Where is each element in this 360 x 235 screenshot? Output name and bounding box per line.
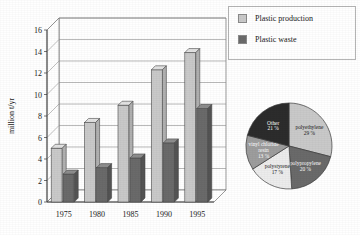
legend-label-plastic-waste: Plastic waste bbox=[255, 35, 297, 44]
y-axis-title: million t/yr bbox=[7, 98, 16, 135]
bar-plastic-waste-1975 bbox=[63, 170, 78, 202]
y-axis-tick-label: 16 bbox=[34, 26, 42, 35]
pie-value-polyethylene: 29 % bbox=[304, 130, 316, 136]
pie-value-polystyrene: 17 % bbox=[272, 169, 284, 175]
y-axis-tick-label: 12 bbox=[34, 69, 42, 78]
pie-chart-canvas: polyethylene29 %polypropylene20 %polysty… bbox=[236, 92, 346, 204]
legend-item-plastic-waste: Plastic waste bbox=[238, 35, 355, 44]
legend-label-plastic-production: Plastic production bbox=[255, 14, 313, 23]
figure-plastic-production-and-waste: 0246810121416million t/yr197519801985199… bbox=[0, 0, 360, 235]
pie-value-other: 21 % bbox=[268, 125, 280, 131]
y-axis-tick-label: 8 bbox=[38, 112, 42, 121]
y-axis-tick-label: 4 bbox=[38, 155, 42, 164]
y-axis-tick-label: 0 bbox=[38, 198, 42, 207]
chart-legend: Plastic production Plastic waste bbox=[228, 6, 356, 60]
x-axis-tick-label: 1980 bbox=[89, 210, 105, 219]
x-axis-tick-label: 1990 bbox=[156, 210, 172, 219]
legend-swatch-plastic-production bbox=[238, 14, 247, 23]
legend-swatch-plastic-waste bbox=[238, 35, 247, 44]
legend-item-plastic-production: Plastic production bbox=[238, 14, 355, 23]
y-axis-tick-label: 14 bbox=[34, 48, 42, 57]
pie-value-vinyl-chloride-resin: 13 % bbox=[258, 153, 270, 159]
x-axis-tick-label: 1995 bbox=[189, 210, 205, 219]
pie-value-polypropylene: 20 % bbox=[300, 166, 312, 172]
bar-plastic-waste-1985 bbox=[130, 154, 145, 202]
y-axis-tick-label: 6 bbox=[38, 134, 42, 143]
bar-chart-canvas: 0246810121416million t/yr197519801985199… bbox=[0, 0, 232, 235]
pie-chart: polyethylene29 %polypropylene20 %polysty… bbox=[236, 92, 346, 204]
x-axis-tick-label: 1975 bbox=[56, 210, 72, 219]
y-axis-tick-label: 10 bbox=[34, 91, 42, 100]
x-axis-tick-label: 1985 bbox=[123, 210, 139, 219]
bar-plastic-waste-1995 bbox=[197, 104, 212, 202]
bar-plastic-waste-1980 bbox=[97, 164, 112, 202]
y-axis-tick-label: 2 bbox=[38, 177, 42, 186]
bar-chart: 0246810121416million t/yr197519801985199… bbox=[0, 0, 232, 235]
bar-plastic-waste-1990 bbox=[163, 139, 178, 202]
